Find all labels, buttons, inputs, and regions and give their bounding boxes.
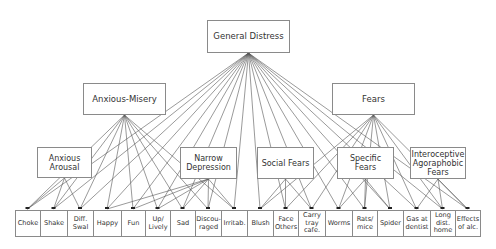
leaf-discouraged: Discou- raged [195,210,222,237]
leaf-spider: Spider [377,210,404,237]
leaf-gas-at-dentist: Gas at dentist [403,210,431,237]
leaf-sad: Sad [170,210,196,237]
leaf-long-dist-home: Long dist. home [430,210,456,237]
node-anxious-misery: Anxious-Misery [83,83,166,115]
leaf-choke: Choke [15,210,41,237]
node-specific-fears: Specific Fears [337,147,394,179]
node-social-fears: Social Fears [257,147,314,179]
leaf-blush: Blush [247,210,274,237]
node-fears: Fears [332,83,415,115]
leaf-diff-swal: Diff. Swal [67,210,94,237]
leaf-happy: Happy [93,210,122,237]
leaf-up-lively: Up/ Lively [145,210,171,237]
node-narrow-depression: Narrow Depression [180,147,237,179]
leaf-carry-tray: Carry tray cafe. [298,210,326,237]
leaf-worms: Worms [325,210,353,237]
leaf-face-others: Face Others [273,210,299,237]
factor-hierarchy-diagram: General Distress Anxious-Misery Fears An… [0,0,496,249]
leaf-rats-mice: Rats/ mice [352,210,378,237]
leaf-fun: Fun [121,210,146,237]
leaf-irritab: Irritab. [221,210,248,237]
node-interoceptive-agoraphobic-fears: Interoceptive Agoraphobic Fears [410,147,466,179]
leaf-shake: Shake [40,210,68,237]
node-general-distress: General Distress [207,20,290,53]
leaf-effects-of-alc: Effects of alc. [455,210,481,237]
node-anxious-arousal: Anxious Arousal [37,147,92,178]
